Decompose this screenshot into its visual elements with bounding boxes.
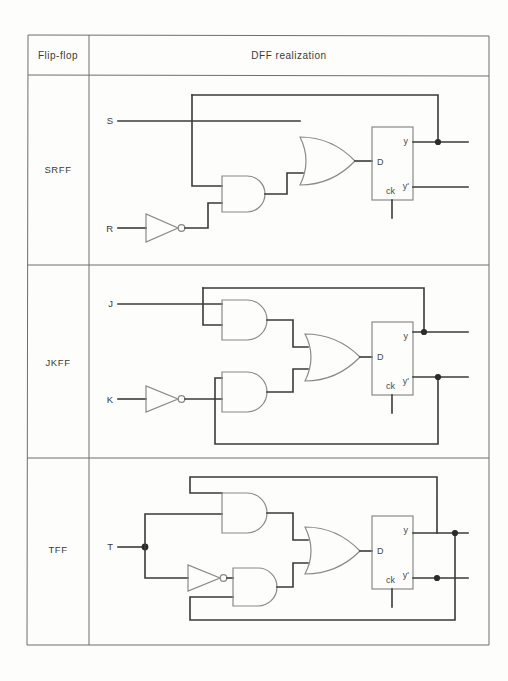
row-label-tff: TFF — [48, 544, 67, 555]
input-label-j: J — [108, 298, 113, 309]
dff-pin-y-jkff: y — [404, 331, 409, 341]
header-flipflop: Flip-flop — [38, 50, 78, 61]
row-label-jkff: JKFF — [45, 357, 70, 368]
dff-pin-d-srff: D — [377, 157, 384, 167]
row-label-srff: SRFF — [44, 164, 71, 175]
flipflop-realization-figure: Flip-flop DFF realization SRFF JKFF TFF … — [0, 0, 508, 681]
and-gate-tff-bottom — [233, 568, 277, 606]
and-gate-jkff-bottom — [222, 372, 267, 412]
dff-pin-ck-jkff: ck — [386, 381, 396, 391]
dff-pin-d-tff: D — [377, 546, 384, 556]
figure-sheet: Flip-flop DFF realization SRFF JKFF TFF … — [0, 0, 508, 681]
junction-dot-srff-y — [435, 139, 441, 145]
junction-dot-tff-ybar — [434, 575, 440, 581]
dff-pin-d-jkff: D — [377, 352, 384, 362]
circuit-tff: T D ck y y' — [107, 477, 468, 620]
circuit-srff: S R D ck y y' — [106, 95, 468, 242]
dff-pin-y-tff: y — [404, 525, 409, 535]
dff-pin-ybar-srff: y' — [403, 181, 410, 191]
not-gate-tff — [188, 565, 220, 591]
junction-dot-jkff-y — [421, 329, 427, 335]
and-gate-tff-top — [222, 493, 267, 533]
circuit-jkff: J K D ck y y' — [107, 288, 468, 444]
input-label-t: T — [107, 541, 113, 552]
not-gate-srff — [146, 214, 178, 242]
and-gate-jkff-top — [222, 300, 267, 340]
not-gate-jkff — [146, 386, 178, 412]
or-gate-jkff — [305, 334, 360, 381]
junction-dot-jkff-ybar — [435, 374, 441, 380]
header-dff-realization: DFF realization — [251, 50, 326, 61]
dff-pin-y-srff: y — [404, 136, 409, 146]
and-gate-srff — [222, 176, 265, 212]
not-bubble-jkff — [178, 396, 185, 403]
or-gate-srff — [300, 137, 355, 185]
not-bubble-srff — [178, 225, 185, 232]
or-gate-tff — [305, 527, 360, 574]
dff-pin-ybar-jkff: y' — [403, 376, 410, 386]
input-label-s: S — [107, 115, 113, 126]
dff-pin-ck-srff: ck — [386, 186, 396, 196]
junction-dot-tff-y — [452, 530, 458, 536]
not-bubble-tff — [220, 575, 227, 582]
dff-pin-ck-tff: ck — [386, 575, 396, 585]
input-label-k: K — [107, 394, 114, 405]
dff-pin-ybar-tff: y' — [403, 570, 410, 580]
table-frame — [27, 35, 489, 645]
input-label-r: R — [106, 223, 113, 234]
